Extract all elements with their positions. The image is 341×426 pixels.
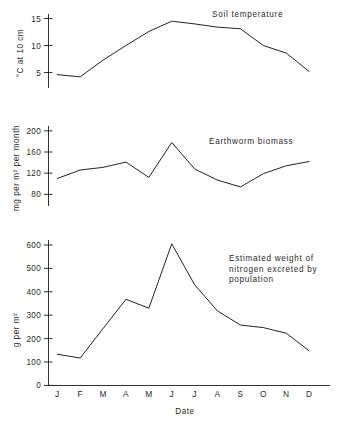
panel2-ytick-label-120: 120 [26,169,41,178]
panel3-y-axis-label: g per m² [12,313,21,347]
panel3-xtick-label-6: J [192,389,197,399]
panel1-data-line [57,21,309,77]
panel1-ytick-label-5: 5 [36,69,41,78]
panel2-ytick-label-80: 80 [31,190,41,199]
panel3-xtick-label-0: J [55,389,60,399]
panel-soil-temperature: 15 10 5 °C at 10 cm Soil temperature [16,10,309,88]
panel3-ytick-label-400: 400 [26,288,41,297]
panel2-y-axis-label: mg per m² per month [12,125,21,211]
x-axis-label: Date [175,407,194,416]
multi-panel-line-chart: 15 10 5 °C at 10 cm Soil temperature 200… [0,0,341,426]
panel2-title: Earthworm biomass [209,137,293,146]
panel1-title: Soil temperature [212,10,283,19]
panel3-ytick-label-600: 600 [26,241,41,250]
panel3-xtick-label-3: A [123,389,129,399]
figure-container: 15 10 5 °C at 10 cm Soil temperature 200… [0,0,341,426]
panel3-ytick-label-200: 200 [26,335,41,344]
panel3-xtick-label-8: S [237,389,243,399]
panel1-ytick-label-15: 15 [31,15,41,24]
panel3-xtick-label-5: J [169,389,174,399]
panel3-xtick-label-10: N [283,389,289,399]
panel3-title-line-2: nitrogen excreted by [229,265,317,274]
panel2-data-line [57,142,309,187]
panel3-xtick-label-4: M [145,389,152,399]
panel1-y-axis-label: °C at 10 cm [16,29,25,77]
panel-earthworm-biomass: 200 160 120 80 mg per m² per month Earth… [12,125,309,211]
panel3-ytick-label-300: 300 [26,311,41,320]
panel3-title-line-3: population [229,275,274,284]
panel3-ytick-label-100: 100 [26,358,41,367]
panel2-ytick-label-200: 200 [26,127,41,136]
panel3-xtick-label-9: O [260,389,267,399]
panel3-xtick-label-11: D [306,389,312,399]
panel3-ytick-label-0: 0 [36,381,41,390]
panel3-title-line-1: Estimated weight of [229,254,314,263]
panel1-ytick-label-10: 10 [31,42,41,51]
panel3-xtick-label-1: F [77,389,82,399]
panel3-xtick-label-7: A [215,389,221,399]
panel2-ytick-label-160: 160 [26,148,41,157]
panel3-ytick-label-500: 500 [26,264,41,273]
panel3-xtick-label-2: M [99,389,106,399]
panel-nitrogen-excreted: 600 500 400 300 200 100 0 g per m² Estim… [12,240,330,416]
